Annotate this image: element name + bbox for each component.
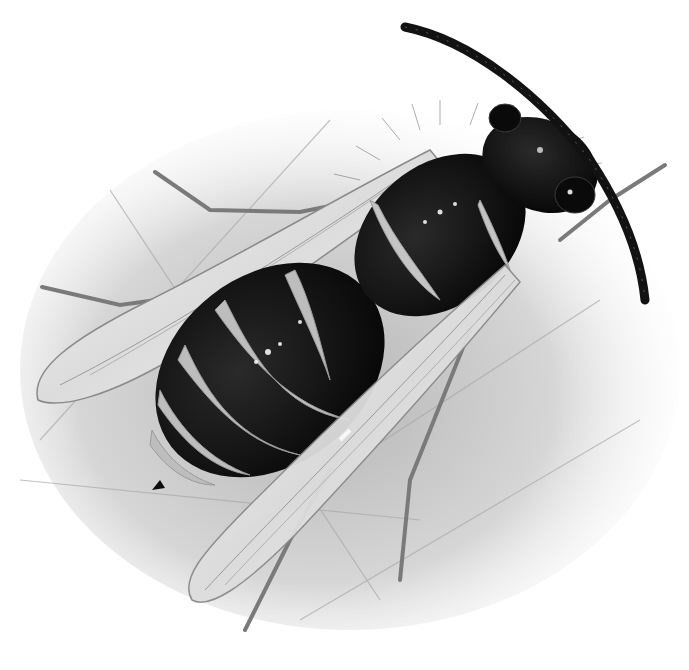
illustration-canvas (0, 0, 689, 670)
compound-eye (555, 177, 595, 213)
compound-eye (489, 104, 521, 132)
